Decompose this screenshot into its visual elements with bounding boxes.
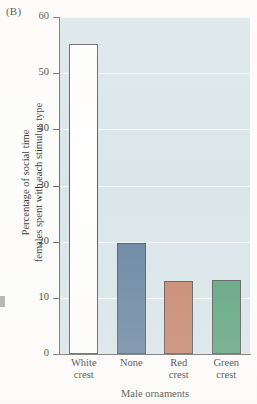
y-axis-tick-label: 0	[3, 348, 49, 359]
scan-edge-artifact	[0, 296, 5, 307]
figure-panel-b: (B) 0102030405060 WhitecrestNoneRedcrest…	[0, 0, 257, 404]
bar-series	[60, 17, 250, 354]
x-axis-tick-label: Whitecrest	[60, 357, 108, 380]
y-axis-title-line-2: females spent with each stimulus type	[32, 33, 45, 333]
x-axis-title: Male ornaments	[60, 388, 250, 399]
x-axis-tick-label: None	[108, 357, 156, 369]
x-axis-tick-label: Redcrest	[155, 357, 203, 380]
bar	[117, 243, 146, 354]
y-axis-title: Percentage of social time females spent …	[20, 33, 45, 333]
x-axis-tick-labels: WhitecrestNoneRedcrestGreencrest	[60, 357, 250, 389]
bar	[164, 281, 193, 354]
bar	[212, 280, 241, 354]
y-axis-title-line-1: Percentage of social time	[20, 33, 33, 333]
x-axis-tick-label: Greencrest	[203, 357, 251, 380]
bar	[69, 44, 98, 354]
panel-label: (B)	[6, 5, 21, 17]
x-axis-line	[59, 354, 251, 355]
